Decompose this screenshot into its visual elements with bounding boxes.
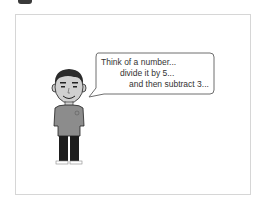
speech-bubble-text: Think of a number... divide it by 5... a… [101, 57, 213, 90]
speech-line-2: divide it by 5... [101, 68, 213, 79]
cartoon-boy-figure [50, 66, 90, 166]
speech-line-1: Think of a number... [101, 57, 213, 68]
speech-bubble [0, 0, 263, 206]
speech-line-3: and then subtract 3... [101, 79, 213, 90]
